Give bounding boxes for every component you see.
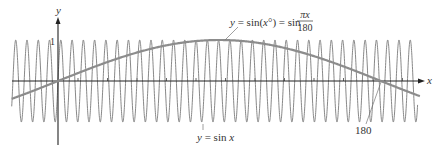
crossing-label-180: 180 — [355, 124, 372, 136]
slow-curve-leader — [225, 27, 238, 40]
slow-curve-label: y = sin(x°) = sin — [229, 16, 301, 29]
slow-curve-frac-den: 180 — [298, 22, 313, 33]
y-tick-1: 1 — [50, 36, 55, 47]
sine-comparison-chart: y x 1 y = sin(x°) = sin πx 180 y = sin x… — [0, 0, 440, 152]
x-axis-arrow-icon — [418, 79, 425, 84]
x-axis-label: x — [426, 74, 432, 86]
fast-curve-label: y = sin x — [196, 131, 234, 143]
slow-curve-frac-num: πx — [300, 9, 310, 20]
y-axis-label: y — [55, 4, 61, 16]
y-axis-arrow-icon — [56, 17, 61, 24]
